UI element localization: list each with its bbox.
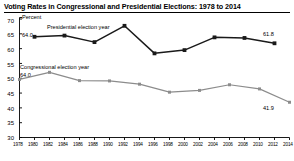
x-tick-label-1986: 1986 (73, 142, 83, 147)
x-tick-label-2000: 2000 (178, 142, 188, 147)
data-point-2002 (198, 89, 201, 92)
data-point-1990 (108, 79, 111, 82)
x-tick-label-2002: 2002 (193, 142, 203, 147)
x-tick-label-2006: 2006 (223, 142, 233, 147)
data-point-2000 (183, 48, 187, 52)
data-point-1998 (168, 91, 171, 94)
data-point-1980 (33, 35, 37, 39)
data-point-1992 (123, 24, 127, 28)
x-tick-label-1978: 1978 (13, 142, 23, 147)
x-tick-label-2012: 2012 (268, 142, 278, 147)
data-point-2006 (228, 83, 231, 86)
data-point-1988 (93, 40, 97, 44)
x-tick-label-1990: 1990 (103, 142, 113, 147)
x-tick-label-1982: 1982 (43, 142, 53, 147)
x-tick-label-2008: 2008 (238, 142, 248, 147)
x-tick-label-1996: 1996 (148, 142, 158, 147)
x-tick-label-1998: 1998 (163, 142, 173, 147)
x-tick-label-1988: 1988 (88, 142, 98, 147)
x-tick-label-2010: 2010 (253, 142, 263, 147)
data-point-1982 (48, 71, 51, 74)
data-point-1984 (63, 34, 67, 38)
data-series-group (18, 24, 291, 104)
x-tick-label-1994: 1994 (133, 142, 143, 147)
data-point-2010 (258, 87, 261, 90)
x-tick-label-1984: 1984 (58, 142, 68, 147)
data-point-1994 (138, 83, 141, 86)
x-tick-label-1992: 1992 (118, 142, 128, 147)
x-tick-label-2014: 2014 (283, 142, 293, 147)
data-point-2004 (213, 35, 217, 39)
x-tick-label-1980: 1980 (28, 142, 38, 147)
data-point-2008 (243, 36, 247, 40)
data-point-2012 (273, 41, 277, 45)
data-point-1978 (18, 78, 21, 81)
data-point-1996 (153, 51, 157, 55)
series-line-congressional (20, 72, 290, 102)
series-line-presidential (35, 26, 275, 54)
plot-area (0, 0, 294, 161)
x-tick-label-2004: 2004 (208, 142, 218, 147)
data-point-2014 (288, 101, 291, 104)
data-point-1986 (78, 79, 81, 82)
chart-figure: Voting Rates in Congressional and Presid… (0, 0, 294, 161)
